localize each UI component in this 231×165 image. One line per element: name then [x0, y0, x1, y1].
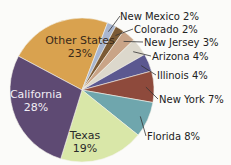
label-other-states: Other States	[45, 34, 115, 47]
label-arizona: Arizona 4%	[152, 51, 209, 62]
label-other-states-pct: 23%	[68, 47, 92, 60]
label-florida: Florida 8%	[147, 131, 200, 142]
label-new-york: New York 7%	[159, 94, 224, 105]
label-colorado: Colorado 2%	[134, 24, 198, 35]
pie-chart: Other States 23% California 28% Texas 19…	[0, 0, 231, 165]
label-california: California	[10, 88, 62, 101]
label-california-pct: 28%	[24, 101, 48, 114]
label-illinois: Illinois 4%	[157, 70, 208, 81]
label-new-jersey: New Jersey 3%	[144, 37, 219, 48]
label-texas-pct: 19%	[73, 142, 97, 155]
label-new-mexico: New Mexico 2%	[120, 11, 199, 22]
label-texas: Texas	[69, 129, 101, 142]
